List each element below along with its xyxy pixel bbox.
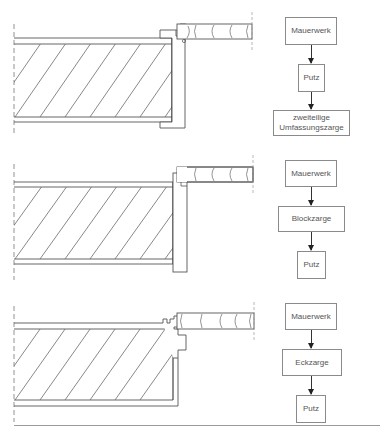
- flow-step-3: Putz: [297, 251, 326, 279]
- flow-step-1: Mauerwerk: [285, 303, 337, 330]
- flow-step-1: Mauerwerk: [285, 160, 337, 187]
- diagram-panel-blockzarge: Mauerwerk Blockzarge Putz: [0, 150, 380, 285]
- flow-step-2: Putz: [298, 64, 325, 92]
- arrow-icon: [311, 232, 312, 250]
- diagram-panel-umfassungszarge: Mauerwerk Putz zweiteilige Umfassungszar…: [0, 0, 380, 145]
- diagram-panel-eckzarge: Mauerwerk Eckzarge Putz: [0, 290, 380, 430]
- arrow-icon: [311, 45, 312, 63]
- flow-step-1: Mauerwerk: [285, 17, 337, 45]
- arrow-icon: [311, 376, 312, 394]
- flow-step-2: Eckzarge: [282, 349, 342, 376]
- arrow-icon: [311, 187, 312, 205]
- flowchart-eckzarge: Mauerwerk Eckzarge Putz: [0, 290, 380, 430]
- flow-step-3: Putz: [296, 395, 326, 423]
- flow-step-2: Blockzarge: [278, 206, 345, 232]
- bottom-divider: [14, 425, 380, 426]
- flowchart-umfassungszarge: Mauerwerk Putz zweiteilige Umfassungszar…: [0, 0, 380, 145]
- flow-step-3: zweiteilige Umfassungszarge: [273, 110, 350, 136]
- arrow-icon: [311, 92, 312, 109]
- arrow-icon: [311, 330, 312, 348]
- flowchart-blockzarge: Mauerwerk Blockzarge Putz: [0, 150, 380, 285]
